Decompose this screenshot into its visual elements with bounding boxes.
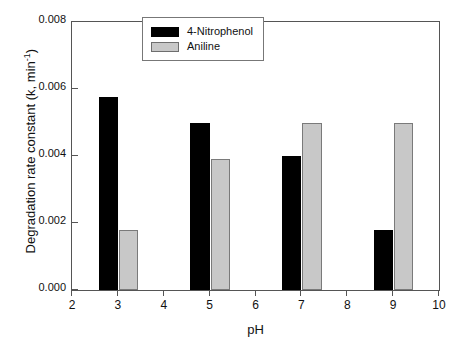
x-tick-mark xyxy=(117,290,118,296)
y-tick-mark xyxy=(72,88,78,89)
y-tick-mark xyxy=(72,155,78,156)
y-tick-label: 0.004 xyxy=(38,148,66,159)
bar-4-nitrophenol-ph-9 xyxy=(374,230,393,290)
x-tick-mark xyxy=(255,290,256,296)
x-tick-label: 6 xyxy=(236,299,276,311)
y-axis-title-tail: ) xyxy=(23,49,38,53)
y-tick-mark xyxy=(72,222,78,223)
x-tick-mark xyxy=(209,290,210,296)
legend-item: Aniline xyxy=(151,39,253,54)
x-tick-label: 7 xyxy=(281,299,321,311)
y-tick-label: 0.000 xyxy=(38,282,66,293)
x-tick-label: 3 xyxy=(98,299,138,311)
legend-label: Aniline xyxy=(187,41,220,52)
x-tick-mark xyxy=(346,290,347,296)
x-tick-label: 8 xyxy=(327,299,367,311)
x-tick-label: 10 xyxy=(419,299,455,311)
x-tick-mark xyxy=(71,290,72,296)
bar-aniline-ph-3 xyxy=(119,230,138,290)
x-tick-label: 9 xyxy=(373,299,413,311)
x-axis-title: pH xyxy=(71,322,440,337)
bar-aniline-ph-5 xyxy=(211,159,230,290)
bar-aniline-ph-7 xyxy=(302,123,321,291)
chart-figure: 0.0000.0020.0040.0060.0082345678910 pH D… xyxy=(0,0,455,356)
legend-item: 4-Nitrophenol xyxy=(151,24,253,39)
y-axis-title-exponent: -1 xyxy=(22,53,32,61)
x-tick-mark xyxy=(438,290,439,296)
bar-aniline-ph-9 xyxy=(394,123,413,291)
y-tick-label: 0.008 xyxy=(38,14,66,25)
y-axis-title: Degradation rate constant (k, min-1) xyxy=(22,16,38,286)
x-tick-label: 5 xyxy=(190,299,230,311)
bar-4-nitrophenol-ph-7 xyxy=(282,156,301,290)
x-tick-mark xyxy=(300,290,301,296)
bar-4-nitrophenol-ph-5 xyxy=(190,123,209,291)
y-tick-mark xyxy=(72,21,78,22)
chart-legend: 4-NitrophenolAniline xyxy=(142,17,264,61)
x-tick-mark xyxy=(163,290,164,296)
legend-swatch-icon xyxy=(151,27,179,37)
legend-label: 4-Nitrophenol xyxy=(187,26,253,37)
y-tick-label: 0.006 xyxy=(38,81,66,92)
legend-swatch-icon xyxy=(151,42,179,52)
bar-4-nitrophenol-ph-3 xyxy=(99,97,118,290)
x-tick-label: 2 xyxy=(52,299,92,311)
x-tick-label: 4 xyxy=(144,299,184,311)
y-tick-label: 0.002 xyxy=(38,215,66,226)
y-tick-mark xyxy=(72,289,78,290)
x-tick-mark xyxy=(392,290,393,296)
plot-area: 0.0000.0020.0040.0060.0082345678910 xyxy=(71,21,440,291)
y-axis-title-main: Degradation rate constant (k, min xyxy=(23,61,38,253)
